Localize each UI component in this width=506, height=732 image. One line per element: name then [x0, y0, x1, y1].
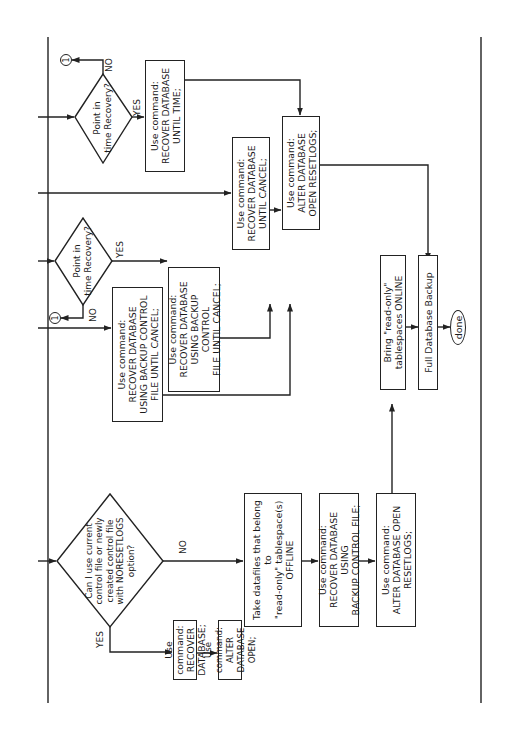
- box-recover-database: Use command: RECOVER DATABASE;: [173, 620, 197, 680]
- label-no-main: NO: [178, 540, 188, 554]
- box-take-datafiles-offline: Take datafiles that belong to "read-only…: [244, 493, 302, 627]
- box-alter-open-resetlogs-lower: Use command: ALTER DATABASE OPEN RESETLO…: [376, 493, 416, 627]
- decision-pitr-2-text: Point in time Recovery?: [84, 78, 122, 158]
- box-recover-bcf-until-cancel-1: Use command: RECOVER DATABASE USING BACK…: [112, 287, 163, 422]
- label-no-pitr-2: NO: [104, 58, 114, 72]
- label-yes-pitr-2: YES: [132, 99, 142, 116]
- box-recover-bcf-until-cancel-2: Use command: RECOVER DATABASE USING BACK…: [168, 267, 220, 392]
- box-bring-tablespaces-online: Bring "read-only" tablespaces ONLINE: [380, 255, 406, 390]
- box-recover-until-cancel: Use command: RECOVER DATABASE UNTIL CANC…: [232, 137, 270, 250]
- box-alter-open-resetlogs-upper: Use command: ALTER DATABASE OPEN RESETLO…: [282, 116, 320, 230]
- connector-1-bottom: 1: [49, 312, 61, 324]
- box-recover-until-time: Use command: RECOVER DATABASE UNTIL TIME…: [145, 60, 185, 172]
- terminal-done: done: [450, 310, 466, 345]
- label-yes-main: YES: [95, 631, 105, 648]
- connector-1-top: 1: [60, 54, 72, 66]
- box-alter-database-open: Use command: ALTER DATABASE OPEN;: [218, 620, 242, 680]
- decision-main-text: Can I use current control file or newly …: [66, 501, 154, 621]
- label-yes-pitr-1: YES: [115, 241, 125, 258]
- box-full-database-backup: Full Database Backup: [418, 255, 438, 390]
- flowchart-canvas: 1 1 Can I use current control file or ne…: [0, 0, 506, 732]
- label-no-pitr-1: NO: [88, 308, 98, 322]
- decision-pitr-1-text: Point in time Recovery?: [64, 222, 102, 300]
- box-recover-using-backup-controlfile: Use command: RECOVER DATABASE USING BACK…: [319, 493, 359, 627]
